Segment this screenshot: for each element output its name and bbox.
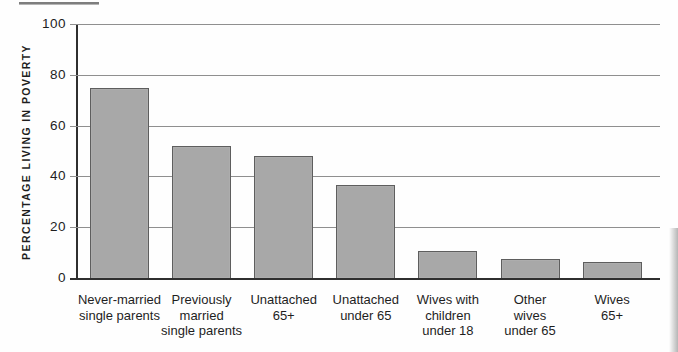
y-axis-title: PERCENTAGE LIVING IN POVERTY xyxy=(20,22,34,282)
bar-4 xyxy=(336,185,395,278)
gridline-100 xyxy=(70,24,660,25)
gridline-80 xyxy=(70,75,660,76)
bar-5 xyxy=(418,251,477,278)
gridline-60 xyxy=(70,126,660,127)
y-tick-label-60: 60 xyxy=(0,118,66,133)
gridline-40 xyxy=(70,176,660,177)
poverty-bar-chart: PERCENTAGE LIVING IN POVERTY 02040608010… xyxy=(0,0,678,352)
bar-1 xyxy=(90,88,149,279)
y-tick-label-20: 20 xyxy=(0,219,66,234)
plot-area xyxy=(76,24,660,280)
y-tick-label-0: 0 xyxy=(0,270,66,285)
bar-3 xyxy=(254,156,313,278)
page-edge-shadow xyxy=(669,228,678,352)
bar-7 xyxy=(583,262,642,279)
zero-tick xyxy=(70,278,78,280)
bar-6 xyxy=(501,259,560,278)
y-tick-label-40: 40 xyxy=(0,168,66,183)
scanned-page: PERCENTAGE LIVING IN POVERTY 02040608010… xyxy=(0,0,678,352)
x-label-7: Wives 65+ xyxy=(547,292,677,323)
bar-2 xyxy=(172,146,231,278)
y-tick-label-80: 80 xyxy=(0,67,66,82)
y-tick-label-100: 100 xyxy=(0,16,66,31)
